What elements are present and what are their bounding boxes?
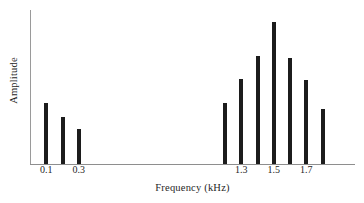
- x-axis-title: Frequency (kHz): [30, 182, 355, 193]
- bar: [321, 109, 325, 164]
- bar: [288, 58, 292, 165]
- y-axis-title-text: Amplitude: [8, 57, 19, 104]
- bar: [256, 56, 260, 164]
- bar: [304, 80, 308, 164]
- y-axis-title: Amplitude: [0, 0, 26, 160]
- x-axis-tick-labels: 0.10.31.31.51.7: [30, 164, 355, 178]
- plot-area: [30, 10, 355, 165]
- x-tick-label: 0.1: [40, 164, 53, 175]
- bar: [223, 103, 227, 164]
- frequency-spectrum-chart: Amplitude 0.10.31.31.51.7 Frequency (kHz…: [0, 0, 364, 203]
- x-tick-label: 0.3: [73, 164, 86, 175]
- bars-layer: [30, 10, 355, 165]
- bar: [61, 117, 65, 164]
- bar: [44, 103, 48, 164]
- x-tick-label: 1.7: [300, 164, 313, 175]
- x-tick-label: 1.5: [268, 164, 281, 175]
- x-tick-label: 1.3: [235, 164, 248, 175]
- bar: [239, 79, 243, 164]
- bar: [272, 22, 276, 164]
- bar: [77, 129, 81, 165]
